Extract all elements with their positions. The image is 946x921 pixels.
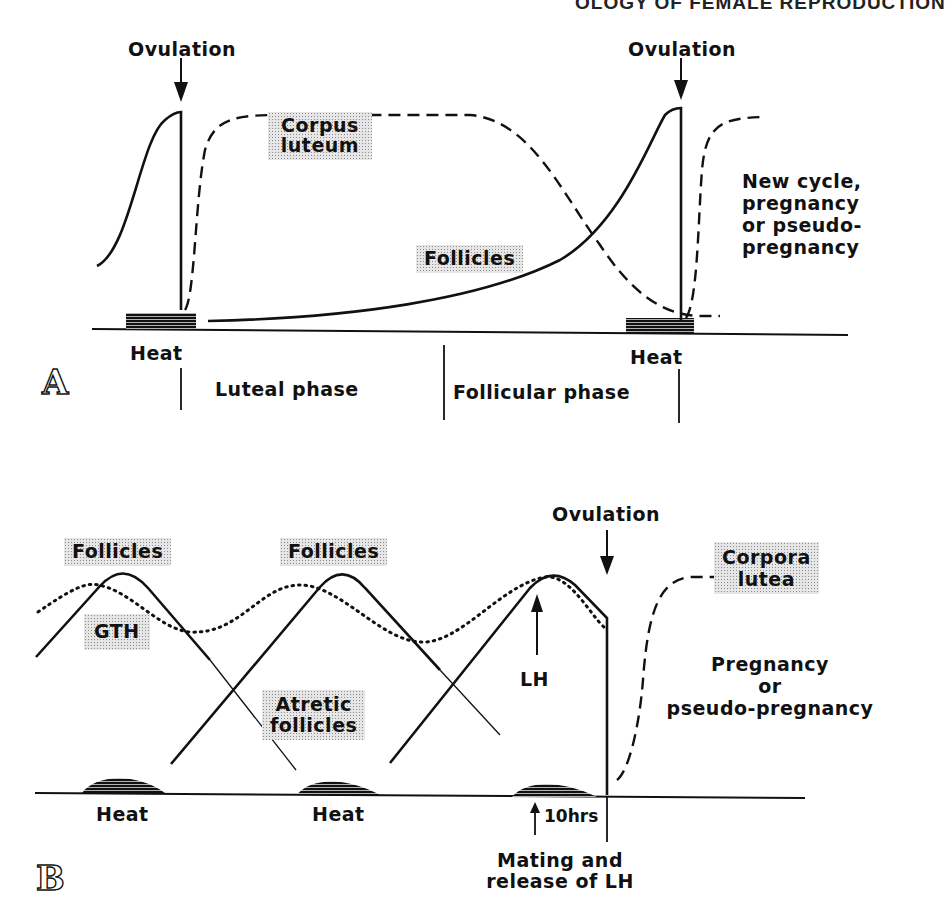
panel-a-letter: A	[42, 362, 68, 402]
corpus-luteum-label: Corpus luteum	[268, 112, 372, 160]
lh-label: LH	[520, 670, 549, 690]
heat-block-icon	[126, 313, 196, 329]
ovulation-label-right: Ovulation	[628, 40, 736, 60]
outcome-line: New cycle,	[742, 170, 862, 192]
heat-label-2: Heat	[312, 805, 365, 825]
atretic-follicles-label: Atretic follicles	[262, 690, 365, 740]
panel-a-graph	[92, 58, 848, 423]
heat-mound-icon	[297, 782, 382, 796]
outcome-label-a: New cycle, pregnancy or pseudo- pregnanc…	[742, 170, 862, 258]
arrow-down-icon	[600, 556, 614, 575]
outcome-line: or pseudo-	[742, 214, 862, 236]
heat-label-left: Heat	[130, 344, 183, 364]
arrow-down-icon	[674, 80, 688, 100]
outcome-line: pregnancy	[742, 236, 862, 258]
arrow-up-icon	[531, 594, 543, 612]
ovulation-label-b: Ovulation	[552, 505, 660, 525]
outcome-label-b: Pregnancy or pseudo-pregnancy	[650, 653, 890, 719]
arrow-down-icon	[174, 82, 188, 102]
mating-line: Mating and	[460, 850, 660, 871]
outcome-line: pseudo-pregnancy	[650, 697, 890, 719]
outcome-line: or	[650, 675, 890, 697]
atretic-line: Atretic	[270, 694, 357, 715]
mating-note: Mating and release of LH	[460, 850, 660, 892]
follicles-label-2: Follicles	[280, 538, 387, 566]
heat-label-1: Heat	[96, 805, 149, 825]
outcome-line: Pregnancy	[650, 653, 890, 675]
follicles-label-1: Follicles	[64, 538, 171, 566]
outcome-line: pregnancy	[742, 192, 862, 214]
interval-label: 10hrs	[544, 808, 598, 826]
mating-line: release of LH	[460, 871, 660, 892]
corpora-line: Corpora	[722, 546, 811, 568]
follicular-phase-label: Follicular phase	[453, 383, 630, 403]
heat-label-right: Heat	[630, 348, 683, 368]
follicles-label: Follicles	[416, 245, 523, 273]
heat-block-icon	[626, 318, 694, 333]
corpora-lutea-label: Corpora lutea	[714, 542, 819, 594]
ovulation-label-left: Ovulation	[128, 40, 236, 60]
atretic-line: follicles	[270, 715, 357, 736]
arrow-up-icon	[530, 802, 540, 813]
panel-b-letter: B	[36, 858, 65, 898]
heat-mound-icon	[512, 784, 597, 797]
luteal-phase-label: Luteal phase	[215, 380, 359, 400]
heat-mound-icon	[82, 778, 165, 793]
gth-label: GTH	[84, 614, 150, 650]
corpora-line: lutea	[722, 568, 811, 590]
